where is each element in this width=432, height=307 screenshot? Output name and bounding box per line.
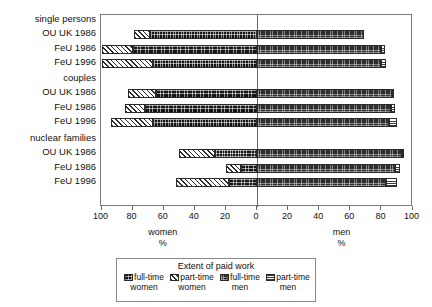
- legend-label-primary: full-time: [230, 272, 260, 282]
- row-label: FeU 1996: [0, 116, 96, 126]
- segment-part-time-men: [389, 118, 397, 127]
- bar-row: [101, 45, 413, 54]
- segment-part-time-men: [381, 59, 386, 68]
- segment-full-time-men: [257, 104, 391, 113]
- axis-caption-men: men: [302, 227, 382, 238]
- chart-container: single personsOU UK 1986FeU 1986FeU 1996…: [0, 0, 432, 307]
- legend-swatch-pt-m-icon: [266, 274, 275, 281]
- row-label: FeU 1986: [0, 43, 96, 53]
- segment-full-time-women: [156, 89, 257, 98]
- axis-caption-women-unit: %: [123, 238, 203, 249]
- axis-tick: [225, 206, 226, 210]
- bar-row: [101, 164, 413, 173]
- row-label: FeU 1996: [0, 176, 96, 186]
- segment-full-time-women: [153, 118, 257, 127]
- legend-items: full-timewomenpart-timewomenfull-timemen…: [117, 272, 315, 293]
- plot-area: [100, 14, 412, 206]
- segment-full-time-men: [257, 45, 381, 54]
- segment-full-time-men: [257, 178, 386, 187]
- axis-tick: [349, 206, 350, 210]
- segment-part-time-men: [392, 89, 394, 98]
- legend-label-primary: full-time: [134, 272, 164, 282]
- segment-full-time-women: [241, 164, 257, 173]
- row-label: FeU 1996: [0, 57, 96, 67]
- segment-full-time-women: [215, 149, 257, 158]
- segment-part-time-women: [102, 45, 133, 54]
- segment-part-time-women: [125, 104, 145, 113]
- row-label: OU UK 1986: [0, 28, 96, 38]
- segment-part-time-men: [391, 104, 396, 113]
- segment-part-time-women: [179, 149, 215, 158]
- axis-caption-women: women: [123, 227, 203, 238]
- segment-part-time-women: [111, 118, 153, 127]
- legend-label-secondary: men: [232, 282, 249, 293]
- segment-part-time-women: [134, 30, 150, 39]
- axis-tick: [101, 206, 102, 210]
- axis-tick: [380, 206, 381, 210]
- legend-item: full-timewomen: [120, 272, 168, 293]
- segment-full-time-women: [145, 104, 257, 113]
- row-label: FeU 1986: [0, 162, 96, 172]
- segment-part-time-women: [176, 178, 229, 187]
- bar-row: [101, 118, 413, 127]
- segment-full-time-women: [150, 30, 257, 39]
- legend-swatch-pt-w-icon: [170, 274, 179, 281]
- segment-full-time-men: [257, 30, 364, 39]
- segment-part-time-men: [395, 164, 400, 173]
- group-label-2: nuclear families: [0, 133, 96, 143]
- axis-tick-label: 100: [392, 211, 432, 222]
- legend-item: part-timemen: [264, 272, 312, 293]
- bar-row: [101, 104, 413, 113]
- axis-tick: [194, 206, 195, 210]
- legend-label-secondary: women: [178, 282, 205, 293]
- group-label-0: single persons: [0, 14, 96, 24]
- legend-swatch-ft-w-icon: [124, 274, 133, 281]
- segment-full-time-men: [257, 149, 402, 158]
- segment-part-time-men: [386, 178, 397, 187]
- axis-tick-labels: 10080604020020406080100: [0, 211, 432, 223]
- segment-part-time-men: [402, 149, 404, 158]
- legend-label-primary: part-time: [180, 272, 214, 282]
- legend-swatch-ft-m-icon: [220, 274, 229, 281]
- legend-title: Extent of paid work: [117, 259, 315, 272]
- axis-tick: [318, 206, 319, 210]
- legend-label-secondary: women: [130, 282, 157, 293]
- legend-item: full-timemen: [216, 272, 264, 293]
- axis-tick: [256, 206, 257, 210]
- axis-tick: [287, 206, 288, 210]
- legend-label-primary: part-time: [276, 272, 310, 282]
- segment-part-time-men: [381, 45, 384, 54]
- segment-part-time-women: [102, 59, 153, 68]
- segment-full-time-men: [257, 164, 395, 173]
- segment-full-time-women: [133, 45, 257, 54]
- group-label-1: couples: [0, 73, 96, 83]
- axis-tick: [163, 206, 164, 210]
- segment-part-time-women: [128, 89, 156, 98]
- bar-row: [101, 30, 413, 39]
- row-label: OU UK 1986: [0, 147, 96, 157]
- chart-legend: Extent of paid work full-timewomenpart-t…: [116, 258, 316, 302]
- bar-row: [101, 178, 413, 187]
- segment-full-time-women: [153, 59, 257, 68]
- bar-row: [101, 149, 413, 158]
- segment-full-time-men: [257, 118, 389, 127]
- row-label: OU UK 1986: [0, 87, 96, 97]
- legend-label-secondary: men: [280, 282, 297, 293]
- axis-tick: [132, 206, 133, 210]
- segment-full-time-men: [257, 89, 392, 98]
- segment-part-time-women: [226, 164, 242, 173]
- segment-full-time-women: [229, 178, 257, 187]
- row-label: FeU 1986: [0, 102, 96, 112]
- axis-tick: [412, 206, 413, 210]
- bar-row: [101, 59, 413, 68]
- axis-caption-men-unit: %: [302, 238, 382, 249]
- segment-full-time-men: [257, 59, 381, 68]
- bar-row: [101, 89, 413, 98]
- legend-item: part-timewomen: [168, 272, 216, 293]
